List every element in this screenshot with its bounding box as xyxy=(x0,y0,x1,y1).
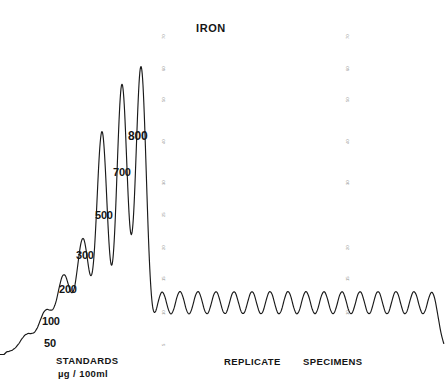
page-title: IRON xyxy=(196,22,226,34)
peak-value-label: 100 xyxy=(42,315,60,327)
grid-scale-number: 50 xyxy=(345,97,350,102)
grid-scale-number: 40 xyxy=(161,139,166,144)
caption-replicate: REPLICATE xyxy=(224,356,281,367)
grid-scale-number: 30 xyxy=(161,180,166,185)
grid-scale-number: 5 xyxy=(161,344,166,346)
grid-scale-number: 10 xyxy=(161,310,166,315)
peak-value-label: 200 xyxy=(59,283,77,295)
caption-specimens: SPECIMENS xyxy=(303,356,363,367)
grid-scale-number: 50 xyxy=(161,97,166,102)
peak-value-label: 700 xyxy=(113,166,131,178)
grid-scale-number: 15 xyxy=(161,276,166,281)
peak-value-label: 50 xyxy=(44,337,56,349)
grid-scale-number: 70 xyxy=(161,34,166,39)
caption-standards-units: µg / 100ml xyxy=(58,368,108,379)
peak-value-label: 300 xyxy=(76,249,94,261)
iron-chart-recorder-trace: IRON 50100200300500700800 STANDARDSµg / … xyxy=(0,0,445,386)
grid-scale-number: 60 xyxy=(345,66,350,71)
grid-scale-number: 60 xyxy=(161,66,166,71)
grid-scale-number: 10 xyxy=(345,310,350,315)
grid-scale-number: 40 xyxy=(345,139,350,144)
caption-standards: STANDARDS xyxy=(56,355,119,366)
grid-scale-number: 15 xyxy=(345,276,350,281)
recorder-trace-svg xyxy=(0,0,445,386)
recorder-trace-line xyxy=(0,67,444,355)
grid-scale-column-left-scale: 7060504030252015105 xyxy=(153,0,167,386)
peak-value-label: 500 xyxy=(95,209,113,221)
grid-scale-number: 25 xyxy=(161,212,166,217)
grid-scale-number: 30 xyxy=(345,180,350,185)
grid-scale-column-right-scale: 7060504030201510 xyxy=(337,0,351,386)
grid-scale-number: 20 xyxy=(161,245,166,250)
peak-value-label: 800 xyxy=(128,129,147,143)
grid-scale-number: 20 xyxy=(345,245,350,250)
grid-scale-number: 70 xyxy=(345,34,350,39)
